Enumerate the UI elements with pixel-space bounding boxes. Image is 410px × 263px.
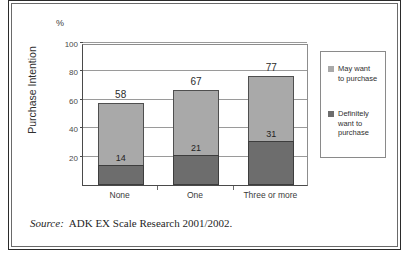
bar-segment-label: 31 <box>248 129 294 139</box>
x-tick-label: None <box>109 190 129 200</box>
bar-segment-definitely-want <box>98 165 144 185</box>
bar-segment-definitely-want <box>173 155 219 185</box>
plot-area: 581467217731 <box>82 44 308 186</box>
source-label: Source: <box>30 217 64 229</box>
legend-entry[interactable]: Definitelywant topurchase <box>328 109 384 138</box>
y-tick-label: 20 <box>56 153 78 162</box>
y-tick-mark <box>80 42 83 43</box>
bar-total-label: 67 <box>173 76 219 87</box>
y-tick-label: 40 <box>56 125 78 134</box>
y-tick-label: 100 <box>56 40 78 49</box>
bar-none <box>98 103 144 185</box>
chart-legend: May wantto purchaseDefinitelywant topurc… <box>320 51 386 158</box>
x-axis-tick-labels: NoneOneThree or more <box>82 190 308 206</box>
legend-swatch-icon <box>328 66 334 72</box>
bar-segment-definitely-want <box>248 141 294 185</box>
y-tick-mark <box>80 99 83 100</box>
bar-total-label: 58 <box>98 89 144 100</box>
legend-label: Definitelywant topurchase <box>338 109 369 138</box>
y-tick-mark <box>80 70 83 71</box>
legend-swatch-icon <box>328 111 334 117</box>
bar-segment-label: 14 <box>98 153 144 163</box>
y-tick-label: 80 <box>56 68 78 77</box>
legend-entry[interactable]: May wantto purchase <box>328 64 384 83</box>
y-axis-title: Purchase Intention <box>26 35 38 145</box>
y-tick-label: 60 <box>56 96 78 105</box>
x-tick-label: One <box>187 190 203 200</box>
y-tick-mark <box>80 156 83 157</box>
y-tick-mark <box>80 127 83 128</box>
y-axis-tick-labels: 20406080100 <box>54 44 78 186</box>
bar-segment-label: 21 <box>173 143 219 153</box>
legend-label: May wantto purchase <box>338 64 377 83</box>
unit-label: % <box>56 18 64 28</box>
bar-one <box>173 90 219 185</box>
x-tick-mark <box>157 186 158 190</box>
source-text: ADK EX Scale Research 2001/2002. <box>69 217 232 229</box>
source-line: Source:ADK EX Scale Research 2001/2002. <box>30 217 232 229</box>
figure-body: % Purchase Intention 20406080100 5814672… <box>12 4 397 246</box>
x-tick-mark <box>233 186 234 190</box>
x-tick-label: Three or more <box>243 190 297 200</box>
figure-outer-frame: % Purchase Intention 20406080100 5814672… <box>8 0 401 250</box>
bar-total-label: 77 <box>248 62 294 73</box>
gridline <box>83 42 307 43</box>
figure-inner-frame: % Purchase Intention 20406080100 5814672… <box>11 3 398 247</box>
stacked-bar-chart: % Purchase Intention 20406080100 5814672… <box>12 4 392 214</box>
